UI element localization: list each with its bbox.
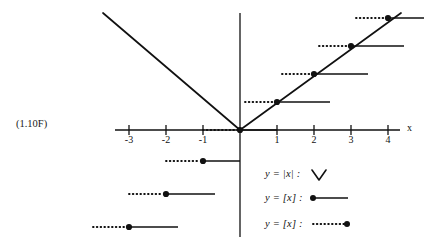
x-tick-label-pos3: 3 bbox=[349, 134, 354, 145]
step-neg-dot-2 bbox=[163, 191, 169, 197]
floor-steps-positive bbox=[203, 15, 424, 133]
x-tick-label-pos1: 1 bbox=[275, 134, 280, 145]
step-dot-2 bbox=[311, 71, 317, 77]
step-neg-dot-3 bbox=[126, 224, 132, 230]
graph-svg bbox=[0, 0, 426, 251]
step-dot-0 bbox=[237, 127, 243, 133]
step-dot-3 bbox=[348, 43, 354, 49]
step-neg-dot-1 bbox=[200, 158, 206, 164]
x-tick-label-neg1: -1 bbox=[199, 134, 207, 145]
legend-glyphs bbox=[310, 170, 350, 227]
vee-right-arm bbox=[240, 13, 401, 130]
figure-tag-label: (1.10F) bbox=[16, 118, 47, 129]
legend-dotted-dot-icon bbox=[344, 221, 350, 227]
legend-solid-dot-icon bbox=[310, 195, 316, 201]
x-tick-label-neg2: -2 bbox=[162, 134, 170, 145]
step-dot-1 bbox=[274, 99, 280, 105]
absolute-value-curve bbox=[103, 13, 401, 130]
legend-vee-icon bbox=[312, 170, 326, 180]
floor-steps-negative bbox=[93, 158, 240, 230]
x-tick-label-pos2: 2 bbox=[312, 134, 317, 145]
x-axis-label: x bbox=[407, 122, 412, 133]
legend-label-abs: y = |x| : bbox=[265, 168, 300, 179]
vee-left-arm bbox=[103, 13, 240, 130]
legend-label-floor-dotted: y = [x] : bbox=[265, 218, 303, 229]
x-tick-label-neg3: -3 bbox=[125, 134, 133, 145]
figure-canvas: (1.10F) x -3 -2 -1 1 2 3 4 y = |x| : y =… bbox=[0, 0, 426, 251]
legend-label-floor-solid: y = [x] : bbox=[265, 192, 303, 203]
x-tick-label-pos4: 4 bbox=[386, 134, 391, 145]
step-dot-4 bbox=[385, 15, 391, 21]
